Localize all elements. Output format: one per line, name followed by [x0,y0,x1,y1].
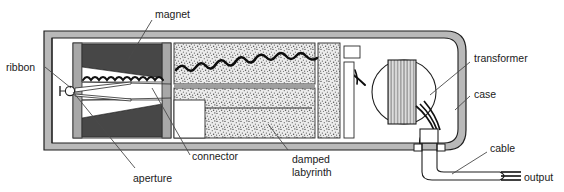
label-magnet: magnet [155,8,190,20]
label-damped-2: labyrinth [292,166,332,178]
label-ribbon: ribbon [6,61,35,73]
figure-canvas: magnet ribbon aperture connector damped … [0,0,564,192]
label-aperture: aperture [133,172,172,184]
label-cable: cable [490,142,515,154]
label-connector: connector [192,150,239,162]
label-transformer: transformer [474,52,528,64]
transformer-coil [388,60,416,124]
label-damped-1: damped [292,153,330,165]
label-case: case [474,88,496,100]
connector-cavity [174,100,205,138]
pole-piece-right [162,43,171,138]
label-output: output [524,171,553,183]
ribbon-microphone-diagram: magnet ribbon aperture connector damped … [0,0,564,192]
